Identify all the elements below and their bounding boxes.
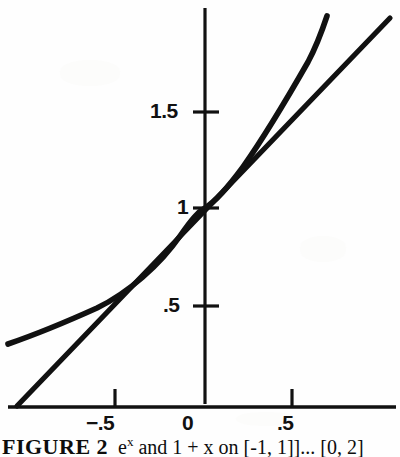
figure-caption-title: FIGURE 2	[2, 434, 108, 457]
figure-caption: FIGURE 2 ex and 1 + x on [-1, 1]]... [0,…	[2, 434, 400, 457]
figure-caption-function: e	[118, 436, 127, 457]
figure-caption-body: ex and 1 + x on [-1, 1]]... [0, 2]	[108, 436, 364, 457]
y-tick-label-1: 1	[177, 195, 188, 219]
y-tick-label-1-5: 1.5	[150, 99, 178, 123]
x-tick-label-neg-0-5: −.5	[86, 411, 114, 435]
plot-area	[0, 0, 400, 457]
y-tick-label-0-5: .5	[163, 293, 180, 317]
figure-caption-rest: and 1 + x on [-1, 1]]... [0, 2]	[133, 436, 363, 457]
figure-container: 1.5 1 .5 −.5 0 .5 FIGURE 2 ex and 1 + x …	[0, 0, 400, 457]
x-tick-label-0-5: .5	[277, 411, 294, 435]
x-tick-label-0: 0	[182, 411, 193, 435]
